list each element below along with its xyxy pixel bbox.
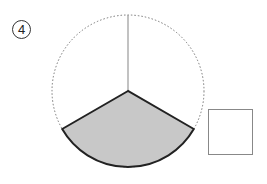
shaded-sector — [62, 91, 194, 167]
circle-sector-figure — [0, 0, 267, 184]
answer-box[interactable] — [208, 109, 253, 155]
